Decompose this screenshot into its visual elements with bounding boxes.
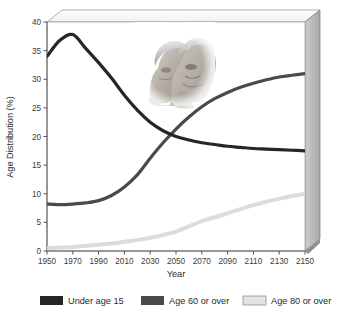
legend-label: Age 60 or over [169,296,229,306]
x-tick-label: 2010 [115,257,134,266]
population-age-distribution-chart: 0510152025303540 19501970199020102030205… [0,0,341,316]
chart-figure: 0510152025303540 19501970199020102030205… [0,0,341,316]
legend-item[interactable]: Age 60 or over [141,296,229,306]
y-tick-label: 5 [36,218,41,227]
y-tick-label: 20 [32,133,42,142]
legend-item[interactable]: Age 80 or over [243,296,331,306]
frame-top-plane [47,10,320,22]
x-tick-label: 2110 [245,257,263,266]
x-axis-title: Year [167,269,186,279]
legend-item[interactable]: Under age 15 [40,296,124,306]
frame-right-wall [305,10,320,251]
x-tick-label: 2030 [141,257,160,266]
y-tick-label: 25 [32,104,42,113]
y-tick-label: 15 [32,161,42,170]
x-tick-label: 2130 [270,257,289,266]
y-axis-ticks: 0510152025303540 [32,18,47,256]
x-tick-label: 2150 [296,257,315,266]
age-60-swatch [141,296,164,305]
y-tick-label: 35 [32,47,42,56]
age-80-swatch [243,296,266,305]
chart-legend: Under age 15Age 60 or overAge 80 or over [40,296,331,306]
x-tick-label: 2090 [218,257,237,266]
y-tick-label: 40 [32,18,42,27]
under-15-swatch [40,296,63,305]
legend-label: Age 80 or over [271,296,331,306]
y-tick-label: 30 [32,75,42,84]
legend-label: Under age 15 [68,296,124,306]
x-tick-label: 2070 [193,257,212,266]
elderly-couple-photo [135,22,216,110]
x-axis-ticks: 1950197019902010203020502070209021102130… [38,251,315,266]
y-tick-label: 0 [36,247,41,256]
x-tick-label: 1990 [89,257,108,266]
x-tick-label: 1970 [64,257,83,266]
x-tick-label: 1950 [38,257,57,266]
x-tick-label: 2050 [167,257,186,266]
y-tick-label: 10 [32,190,42,199]
y-axis-title: Age Distribution (%) [5,96,15,178]
